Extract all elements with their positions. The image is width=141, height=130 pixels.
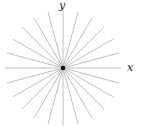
center-point [61,66,65,70]
ray-line [63,68,78,124]
ray-star-diagram [0,0,141,130]
ray-line [48,12,63,68]
x-axis-label: x [127,62,133,73]
ray-line [48,68,63,124]
ray-line [7,53,63,68]
y-axis-label: y [59,0,65,11]
ray-line [63,53,119,68]
ray-line [7,68,63,83]
ray-line [63,68,119,83]
ray-line [63,12,78,68]
